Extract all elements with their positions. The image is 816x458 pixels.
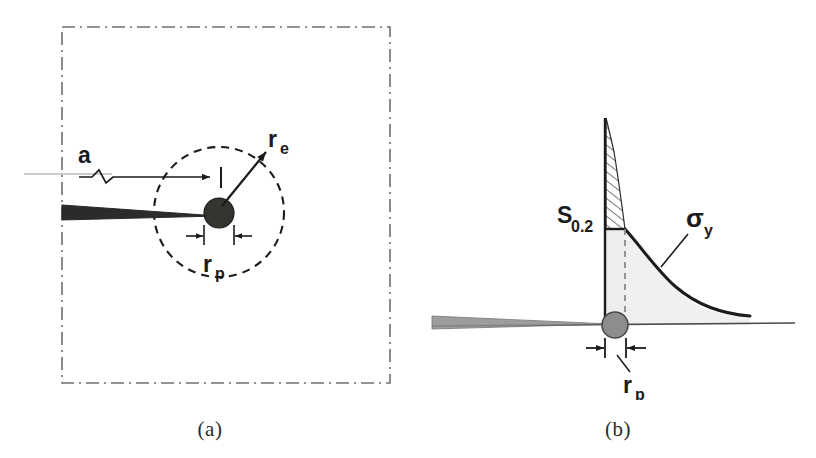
dimension-a — [79, 167, 221, 188]
label-re-main: r — [268, 126, 277, 152]
figure-root: a r e r p (a) — [0, 0, 816, 458]
panel-a-drawing: a r e r p — [0, 0, 420, 400]
hatched-singularity-region — [606, 118, 625, 229]
plastic-zone-fill — [605, 229, 625, 325]
label-s02-sub: 0.2 — [571, 218, 593, 235]
leader-line-rp-b — [617, 355, 630, 372]
label-rp-a-sub: p — [215, 265, 225, 282]
dimension-rp-b — [586, 338, 646, 372]
label-sigma-y-sub: y — [704, 222, 713, 239]
label-rp-b-sub: p — [635, 386, 645, 400]
caption-b: (b) — [420, 417, 816, 442]
caption-a: (a) — [0, 417, 420, 442]
crack-tip-blob-b — [602, 312, 628, 338]
leader-line-sigma-y — [661, 234, 688, 267]
label-re-sub: e — [280, 140, 289, 157]
elastic-field-fill — [625, 229, 750, 325]
label-sigma-y-main: σ — [686, 203, 704, 233]
label-a: a — [78, 142, 91, 168]
panel-a: a r e r p (a) — [0, 0, 420, 458]
label-rp-a-main: r — [203, 251, 212, 277]
label-rp-b-main: r — [623, 372, 632, 398]
panel-b: r p S 0.2 σ y (b) — [420, 0, 816, 458]
panel-b-drawing: r p S 0.2 σ y — [420, 0, 816, 400]
dimension-re — [222, 152, 266, 206]
crack-wedge — [62, 205, 218, 220]
crack-wedge-b — [432, 316, 610, 329]
crack-tip-blob — [204, 198, 234, 228]
